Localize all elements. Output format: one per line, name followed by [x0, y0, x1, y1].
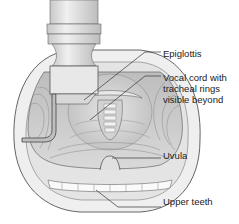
- label-vocal-cord: Vocal cord with tracheal rings visible b…: [163, 72, 227, 105]
- label-vocal-cord-line-3: visible beyond: [163, 94, 227, 105]
- label-vocal-cord-line-1: Vocal cord with: [163, 72, 227, 83]
- laryngoscope-oral-view-illustration: [0, 0, 239, 224]
- label-vocal-cord-line-2: tracheal rings: [163, 83, 227, 94]
- label-uvula: Uvula: [163, 150, 187, 161]
- label-epiglottis: Epiglottis: [163, 48, 202, 59]
- label-upper-teeth: Upper teeth: [163, 196, 213, 207]
- laryngoscope-handle: [47, 0, 101, 94]
